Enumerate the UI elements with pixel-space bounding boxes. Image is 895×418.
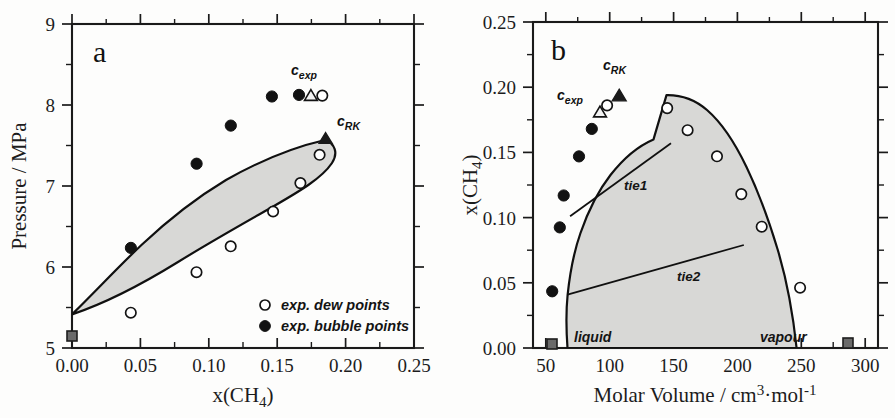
critical-point-crk-marker [319, 133, 332, 144]
panel-a-ytick-3: 8 [46, 95, 56, 116]
region-label-vapour: vapour [760, 329, 808, 345]
panel-b-x-top-ticks [546, 12, 865, 22]
data-point-dew [736, 189, 746, 199]
data-point-dew [317, 90, 327, 100]
panel-a-y-right-ticks [414, 24, 424, 348]
panel-a-two-phase-envelope [72, 139, 335, 314]
data-point-dew [602, 100, 612, 110]
data-point-bubble [225, 120, 236, 131]
data-point-dew [268, 206, 278, 216]
critical-label-crk: cRK [603, 57, 627, 76]
critical-label-cexp: cexp [557, 87, 583, 106]
panel-b-xtick-3: 200 [723, 355, 752, 376]
data-point-bubble [586, 123, 597, 134]
data-point-bubble [558, 190, 569, 201]
legend-label-bubble: exp. bubble points [281, 318, 409, 334]
data-point-dew [712, 151, 722, 161]
data-point-bubble [293, 89, 304, 100]
panel-b-ytick-1: 0.05 [483, 273, 516, 294]
tie-line-1-label: tie1 [624, 178, 647, 193]
panel-a-xaxis-title: x(CH4) [212, 383, 273, 410]
panel-b-svg: 0.00 0.05 0.10 0.15 0.20 0.25 50 100 150… [447, 0, 895, 418]
data-point-bubble [191, 158, 202, 169]
panel-b-ytick-0: 0.00 [483, 338, 516, 359]
critical-label-cexp: cexp [291, 62, 317, 81]
data-point-dew [795, 283, 805, 293]
panel-a-ytick-4: 9 [46, 14, 56, 35]
panel-b-letter: b [551, 33, 566, 66]
panel-a-y-ticks [62, 24, 72, 348]
data-point-bubble [554, 222, 565, 233]
panel-a-ytick-1: 6 [46, 257, 56, 278]
panel-b-xtick-2: 150 [659, 355, 688, 376]
panel-b-xtick-0: 50 [536, 355, 555, 376]
panel-a-letter: a [93, 35, 106, 68]
pure-component-marker-right [843, 338, 853, 348]
data-point-dew [126, 308, 136, 318]
critical-point-cexp-marker [305, 90, 318, 101]
data-point-bubble [573, 151, 584, 162]
critical-point-crk-marker [612, 89, 626, 101]
data-point-dew [295, 178, 305, 188]
figure-container: 5 6 7 8 9 0.00 0.05 0.10 0.15 0.20 0.25 … [0, 0, 895, 418]
panel-b-ytick-2: 0.10 [483, 208, 516, 229]
data-point-dew [226, 241, 236, 251]
panel-b-y-ticks [523, 22, 533, 348]
data-point-dew [191, 267, 201, 277]
panel-a-svg: 5 6 7 8 9 0.00 0.05 0.10 0.15 0.20 0.25 … [0, 0, 448, 418]
panel-b-ytick-4: 0.20 [483, 77, 516, 98]
panel-b: 0.00 0.05 0.10 0.15 0.20 0.25 50 100 150… [447, 0, 895, 418]
panel-a-xtick-0: 0.00 [55, 355, 88, 376]
region-label-liquid: liquid [574, 329, 612, 345]
panel-a-x-top-ticks [72, 14, 414, 24]
panel-b-ytick-5: 0.25 [483, 12, 516, 33]
panel-a-xtick-4: 0.20 [329, 355, 362, 376]
panel-a-xtick-1: 0.05 [124, 355, 157, 376]
data-point-dew [314, 150, 324, 160]
legend-marker-dew [260, 300, 270, 310]
panel-b-xtick-4: 250 [787, 355, 816, 376]
legend-label-dew: exp. dew points [281, 297, 390, 313]
pure-component-marker-left [547, 339, 557, 349]
critical-label-crk: cRK [337, 113, 361, 132]
panel-b-yaxis-title: x(CH4) [458, 154, 485, 215]
panel-a-xtick-3: 0.15 [261, 355, 294, 376]
panel-b-y-right-ticks [878, 22, 888, 348]
panel-a-ytick-0: 5 [46, 338, 56, 359]
panel-a: 5 6 7 8 9 0.00 0.05 0.10 0.15 0.20 0.25 … [0, 0, 448, 418]
panel-b-xaxis-title: Molar Volume / cm3·mol-1 [594, 382, 817, 407]
data-point-bubble [266, 91, 277, 102]
panel-a-legend: exp. dew points exp. bubble points [260, 297, 409, 334]
legend-marker-bubble [260, 321, 271, 332]
panel-b-xtick-5: 300 [851, 355, 880, 376]
panel-a-xtick-2: 0.10 [192, 355, 225, 376]
panel-b-xtick-1: 100 [595, 355, 624, 376]
data-point-dew [662, 103, 672, 113]
data-point-bubble [547, 286, 558, 297]
panel-a-ytick-2: 7 [46, 176, 56, 197]
tie-line-2-label: tie2 [677, 269, 701, 284]
pure-component-marker [67, 331, 77, 341]
data-point-dew [757, 222, 767, 232]
data-point-dew [682, 125, 692, 135]
data-point-bubble [125, 242, 136, 253]
panel-a-xtick-5: 0.25 [397, 355, 430, 376]
panel-a-yaxis-title: Pressure / MPa [7, 122, 31, 250]
panel-b-ytick-3: 0.15 [483, 142, 516, 163]
